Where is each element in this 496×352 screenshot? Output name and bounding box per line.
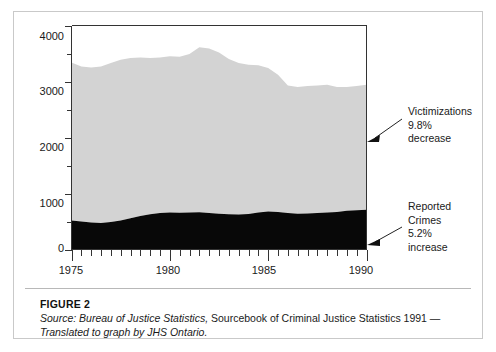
- caption-source-line2: Translated to graph by JHS Ontario.: [40, 326, 207, 338]
- annotation-reported-crimes: Reported Crimes 5.2% increase: [408, 200, 496, 254]
- arrow-head-reported: [367, 239, 380, 246]
- arrow-line-victimizations: [375, 119, 402, 138]
- area-victimizations: [72, 47, 367, 223]
- figure-caption-source: Source: Bureau of Justice Statistics, So…: [40, 311, 470, 339]
- caption-source-italic-part: Source: Bureau of Justice Statistics,: [40, 312, 208, 324]
- caption-divider: [25, 288, 471, 289]
- figure-caption-title: FIGURE 2: [40, 297, 470, 311]
- annotation-arrow-layer: [367, 119, 402, 246]
- series-layer: [72, 47, 367, 249]
- annotation-victimizations: Victimizations 9.8% decrease: [408, 105, 496, 146]
- caption-source-roman-part: Sourcebook of Criminal Justice Statistic…: [208, 312, 440, 324]
- chart-area: 4000 3000 2000 1000 0 1975 1980 1985 199…: [14, 12, 484, 274]
- figure-container: 4000 3000 2000 1000 0 1975 1980 1985 199…: [13, 11, 483, 339]
- caption-block: FIGURE 2 Source: Bureau of Justice Stati…: [40, 297, 470, 339]
